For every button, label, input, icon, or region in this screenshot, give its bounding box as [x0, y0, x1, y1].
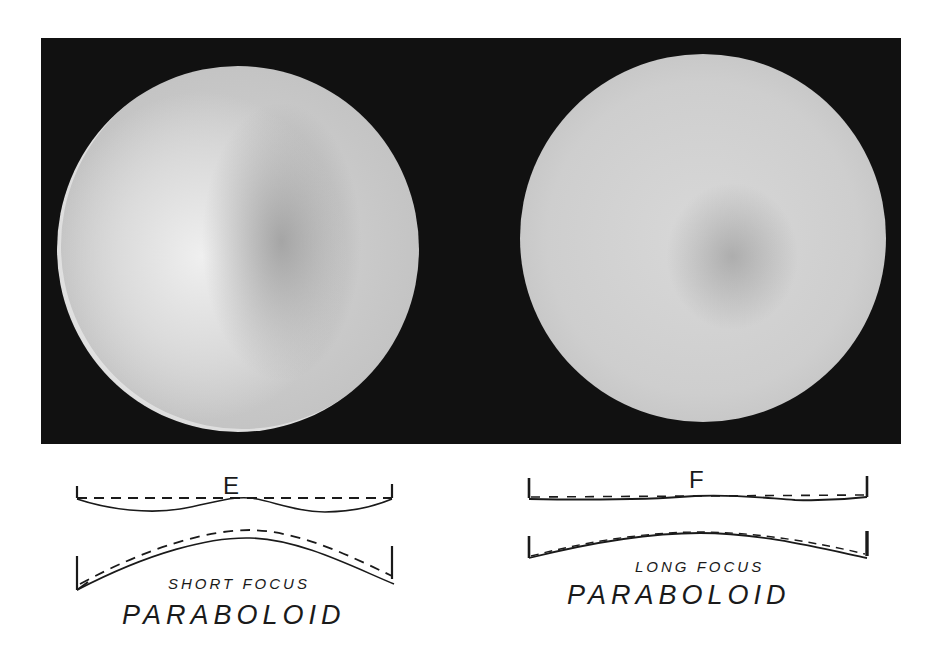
caption-short-focus: SHORT FOCUS — [168, 575, 310, 592]
diagram-e: E SHORT FOCUS — [70, 478, 405, 608]
photo-panel — [41, 38, 901, 444]
caption-long-focus: LONG FOCUS — [635, 558, 764, 575]
diagram-f: F LONG FOCUS — [525, 470, 880, 590]
diagram-letter-f: F — [689, 466, 704, 494]
caption-paraboloid-f: PARABOLOID — [567, 580, 791, 611]
mirror-photo-e — [57, 66, 419, 432]
caption-paraboloid-e: PARABOLOID — [122, 600, 346, 631]
mirror-photo-f — [520, 54, 886, 422]
diagram-letter-e: E — [223, 472, 239, 500]
